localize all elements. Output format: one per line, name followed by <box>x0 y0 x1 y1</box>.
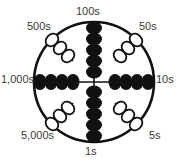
label-100s: 100s <box>76 6 100 17</box>
label-500s: 500s <box>27 21 51 32</box>
label-5s: 5s <box>149 130 161 141</box>
arm-500s-beads <box>43 31 77 65</box>
label-1s: 1s <box>85 146 97 157</box>
label-1000s: 1,000s <box>1 74 34 85</box>
arm-5000s-beads <box>43 99 77 133</box>
label-10s: 10s <box>156 74 174 85</box>
arm-100s-beads <box>86 22 102 79</box>
bead-filled <box>86 130 102 143</box>
arm-5s-beads <box>111 99 145 133</box>
bead-filled <box>142 74 155 90</box>
arm-50s-beads <box>111 31 145 65</box>
bead-filled <box>67 74 80 90</box>
label-50s: 50s <box>139 21 157 32</box>
arm-1000s-beads <box>34 74 80 90</box>
circular-abacus-diagram: 100s 500s 50s 1,000s 10s 5,000s 5s 1s <box>0 0 187 164</box>
arm-10s-beads <box>109 74 155 90</box>
label-5000s: 5,000s <box>21 130 54 141</box>
bead-filled <box>86 66 102 79</box>
arm-1s-beads <box>86 86 102 143</box>
